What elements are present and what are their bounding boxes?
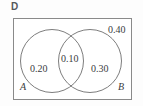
venn-diagram-figure: D 0.20 0.10 0.30 0.40 A B	[0, 0, 143, 106]
set-label-b: B	[118, 81, 124, 92]
value-b-only: 0.30	[91, 63, 109, 74]
value-intersection: 0.10	[61, 53, 79, 64]
value-a-only: 0.20	[30, 63, 48, 74]
set-label-a: A	[20, 81, 26, 92]
value-outside: 0.40	[108, 24, 126, 35]
